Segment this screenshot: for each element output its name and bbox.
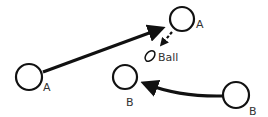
- player-a1-label: A: [43, 81, 51, 94]
- arrow-a2-to-ball: [162, 32, 172, 44]
- player-a2-label: A: [196, 18, 204, 31]
- player-b1-circle: [113, 65, 137, 89]
- arrow-b2-to-b1: [146, 84, 223, 96]
- arrow-a1-to-a2: [43, 29, 160, 72]
- player-a2-circle: [170, 7, 194, 31]
- player-a1-circle: [16, 64, 42, 90]
- player-b2-circle: [223, 82, 249, 108]
- ball-icon: [143, 49, 157, 63]
- player-b2-label: B: [249, 105, 257, 117]
- ball-label: Ball: [158, 51, 178, 64]
- play-diagram: A A B B Ball: [0, 0, 268, 117]
- diagram-canvas: A A B B Ball: [0, 0, 268, 117]
- player-b1-label: B: [126, 96, 134, 109]
